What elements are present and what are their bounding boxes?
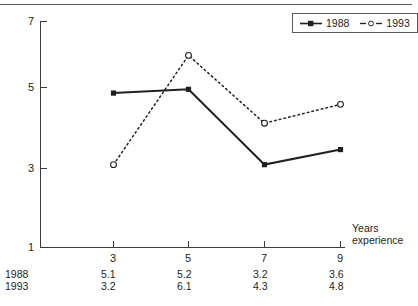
legend-marker-filled-square-icon xyxy=(300,19,322,28)
data-point-1993-x9 xyxy=(338,101,344,107)
series-1988 xyxy=(111,87,343,168)
table-cell-1988-x9: 3.6 xyxy=(329,268,373,280)
legend: 1988 1993 xyxy=(292,13,418,33)
table-cell-1993-x3: 3.2 xyxy=(101,280,145,292)
data-point-1988-x7 xyxy=(262,162,267,167)
table-cell-1988-x7: 3.2 xyxy=(253,268,297,280)
legend-entry-1993: 1993 xyxy=(360,18,409,29)
table-row-1988: 1988 5.1 5.2 3.2 3.6 xyxy=(0,268,412,280)
data-point-1988-x9 xyxy=(338,147,343,152)
series-layer xyxy=(0,0,412,270)
table-row-1993: 1993 3.2 6.1 4.3 4.8 xyxy=(0,280,412,292)
data-point-1993-x7 xyxy=(262,120,268,126)
data-table: 1988 5.1 5.2 3.2 3.6 1993 3.2 6.1 4.3 4.… xyxy=(0,268,412,292)
table-cell-1988-x5: 5.2 xyxy=(177,268,221,280)
data-point-1988-x5 xyxy=(186,87,191,92)
data-point-1993-x5 xyxy=(186,53,192,59)
plot-area: 7 5 3 1 3 5 7 9 Years experience xyxy=(0,0,412,270)
series-1993 xyxy=(111,53,344,168)
legend-label-1988: 1988 xyxy=(326,18,349,29)
data-point-1988-x3 xyxy=(111,90,116,95)
table-cell-1993-x9: 4.8 xyxy=(329,280,373,292)
table-row-label-1993: 1993 xyxy=(5,280,45,292)
table-row-label-1988: 1988 xyxy=(5,268,45,280)
table-cell-1988-x3: 5.1 xyxy=(101,268,145,280)
data-point-1993-x3 xyxy=(111,162,117,168)
legend-marker-open-circle-icon xyxy=(360,19,382,28)
table-cell-1993-x5: 6.1 xyxy=(177,280,221,292)
legend-entry-1988: 1988 xyxy=(300,18,349,29)
legend-label-1993: 1993 xyxy=(386,18,409,29)
table-cell-1993-x7: 4.3 xyxy=(253,280,297,292)
